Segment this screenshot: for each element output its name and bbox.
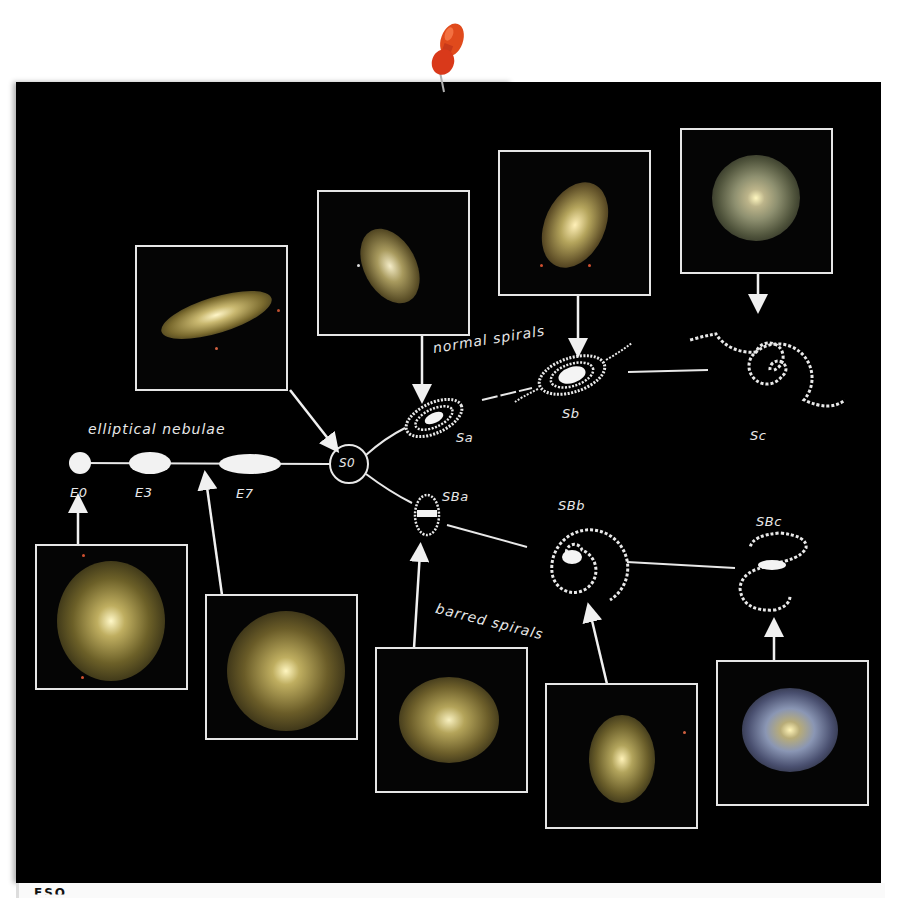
pushpin-icon [0, 0, 898, 898]
